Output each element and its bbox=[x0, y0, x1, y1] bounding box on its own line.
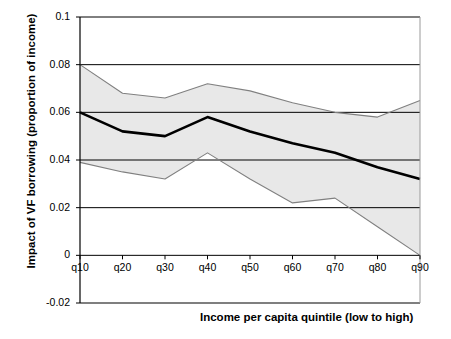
chart-container: Impact of VF borrowing (proportion of in… bbox=[0, 0, 451, 339]
x-tick-label-q50: q50 bbox=[230, 261, 270, 273]
y-tick-label: 0 bbox=[26, 248, 70, 260]
x-tick-label-q30: q30 bbox=[145, 261, 185, 273]
y-axis-title: Impact of VF borrowing (proportion of in… bbox=[25, 6, 37, 276]
y-tick-label: 0.02 bbox=[26, 201, 70, 213]
x-tick-label-q80: q80 bbox=[358, 261, 398, 273]
y-tick-label: 0.08 bbox=[26, 58, 70, 70]
y-tick-label: 0.06 bbox=[26, 105, 70, 117]
y-tick-label: -0.02 bbox=[26, 296, 70, 308]
chart-plot-area bbox=[0, 0, 451, 339]
x-tick-label-q60: q60 bbox=[273, 261, 313, 273]
y-tick-label: 0.04 bbox=[26, 153, 70, 165]
x-axis-title: Income per capita quintile (low to high) bbox=[200, 311, 450, 323]
x-tick-label-q70: q70 bbox=[315, 261, 355, 273]
x-tick-label-q90: q90 bbox=[400, 261, 440, 273]
x-tick-label-q10: q10 bbox=[60, 261, 100, 273]
x-tick-label-q40: q40 bbox=[188, 261, 228, 273]
x-tick-label-q20: q20 bbox=[103, 261, 143, 273]
y-tick-label: 0.1 bbox=[26, 10, 70, 22]
